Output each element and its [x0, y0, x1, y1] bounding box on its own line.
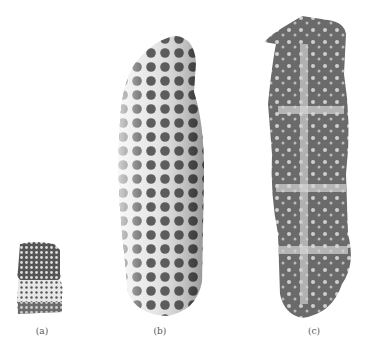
panel-label-a: (a): [36, 326, 48, 336]
specimen-b-image: [116, 32, 208, 320]
panel-label-c: (c): [308, 326, 320, 336]
specimen-c-image: [262, 14, 358, 320]
panel-label-b: (b): [154, 326, 167, 336]
specimen-a-image: [14, 240, 66, 316]
